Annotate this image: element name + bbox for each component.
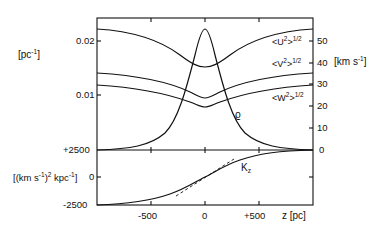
x-tick-label: 0 [202,211,207,221]
right-tick-label: 40 [317,58,328,68]
x-axis-label: z [pc] [282,211,306,221]
series-rho-density [97,29,313,150]
right-axis-unit: [km s-1] [334,57,366,67]
left-axis-unit-lower: [(km s-1)2 kpc-1] [13,173,77,183]
label-Kz: Kz [241,163,251,173]
right-tick-label: 50 [317,36,328,46]
right-tick-label: 10 [317,123,328,133]
label-V-dispersion: <V2>1/2 [272,59,301,69]
lower-left-tick-label: 0 [89,172,94,182]
series-Kz-linear [176,159,234,196]
lower-left-tick-label: -2500 [63,200,87,210]
label-rho: ϱ [235,110,241,120]
left-axis-unit-upper: [pc-1] [18,50,40,60]
x-tick-label: +500 [244,211,265,221]
x-tick-label: -500 [138,211,157,221]
lower-left-tick-label: +2500 [63,145,90,155]
right-tick-label: 0 [319,145,324,155]
left-tick-label: 0.01 [76,90,95,100]
label-W-dispersion: <W2>1/2 [272,93,304,103]
label-U-dispersion: <U2>1/2 [272,37,302,47]
right-tick-label: 20 [317,101,328,111]
left-tick-label: 0.02 [76,36,95,46]
right-tick-label: 30 [317,79,328,89]
